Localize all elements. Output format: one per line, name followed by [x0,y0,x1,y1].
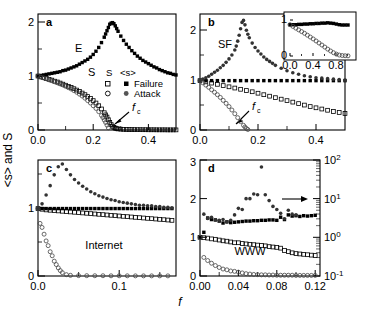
data-point [239,87,243,91]
panel-d-xtick-0: 0.00 [189,280,210,292]
data-point [264,219,267,222]
data-point [113,199,117,203]
data-point [89,190,93,194]
data-point [320,76,324,80]
data-point [48,184,52,188]
data-point [286,250,290,254]
panel-b-inset-ytick-1: 1 [281,13,287,25]
panel-b-ytick-1: 1 [190,74,196,86]
panel-c-ytick-1: 1 [28,202,34,214]
data-point [244,272,248,276]
data-point [216,68,220,72]
data-point [210,237,214,241]
data-point [291,100,295,104]
data-point [44,207,47,210]
data-point [323,21,326,24]
data-point [77,181,81,185]
data-point [61,162,65,166]
data-point [93,207,96,210]
data-point [244,219,247,222]
data-point [97,110,101,114]
data-point [332,22,335,25]
data-point [314,106,318,110]
data-point [294,213,298,217]
data-point [46,244,50,248]
axis-x-title: f [178,295,183,309]
panel-d-letter: d [208,162,215,174]
data-point [271,205,275,209]
panel-d-label-www: WWW [234,245,266,257]
data-point [275,219,278,222]
data-point [229,240,233,244]
data-point [250,90,254,94]
panel-d-right-ytick-2: 101 [324,192,341,205]
data-point [146,204,150,208]
network-robustness-figure: <s> and S f 0 1 2 [0,0,370,318]
data-point [332,110,336,114]
panel-a-ytick-2: 2 [28,16,34,28]
data-point [302,273,306,277]
data-point [287,208,291,212]
data-point [283,217,287,221]
data-point [222,79,225,82]
data-point [267,199,271,203]
data-point [290,251,294,255]
data-point [280,79,283,82]
data-point [216,82,220,86]
data-point [113,207,116,210]
panel-d-xtick-2: 0.08 [266,280,287,292]
data-point [170,206,174,210]
data-point [117,214,121,218]
panel-c-yticks: 0 1 [28,174,45,282]
data-point [224,61,228,65]
data-point [105,213,109,217]
data-point [298,215,301,218]
data-point [233,213,237,217]
panel-a-xticks: 0.0 0.2 0.4 [30,124,156,146]
panel-c-xtick-0: 0.0 [30,280,45,292]
data-point [116,30,119,33]
data-point [69,173,73,177]
data-point [262,55,266,59]
data-point [267,218,270,221]
data-point [332,77,336,81]
panel-b-inset-frame [284,12,356,60]
data-point [217,238,221,242]
panel-b-label-SF: SF [218,38,232,50]
data-point [77,207,80,210]
data-point [97,46,100,49]
data-point [233,269,237,273]
data-point [206,236,210,240]
data-point [170,218,174,222]
data-point [101,195,105,199]
data-point [81,185,85,189]
data-point [274,96,278,100]
data-point [93,192,97,196]
data-point [233,112,237,116]
panel-a-fc-subscript: c [137,108,141,115]
data-point [213,264,217,268]
panel-a-letter: a [46,16,53,28]
data-point [290,212,294,216]
panel-d-xticks: 0.00 0.04 0.08 0.12 [189,270,326,292]
data-point [81,211,85,215]
data-point [298,252,302,256]
data-point [263,193,267,197]
data-point [150,217,154,221]
data-point [105,207,108,210]
data-point [158,205,162,209]
data-point [134,207,137,210]
data-point [303,74,307,78]
panel-b-inset-xtick-0: 0.0 [282,59,297,71]
panel-d-right-arrow-icon [282,196,308,202]
panel-b-inset-xtick-2: 0.8 [328,59,343,71]
data-point [113,214,117,218]
data-point [248,219,251,222]
panel-d-frame [200,160,320,276]
data-point [262,93,266,97]
data-point [105,197,109,201]
data-point [260,219,263,222]
data-point [93,212,97,216]
data-point [162,218,166,222]
axis-x-title-text: f [178,295,183,309]
